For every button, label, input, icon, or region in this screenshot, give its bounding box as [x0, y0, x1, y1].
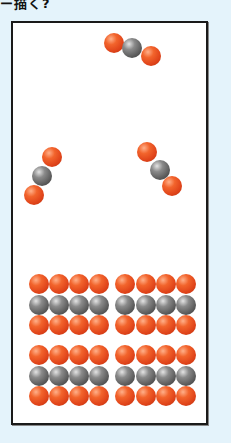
- oxygen-atom-icon: [42, 147, 62, 167]
- oxygen-lattice-atom-icon: [29, 274, 49, 294]
- carbon-lattice-atom-icon: [115, 366, 135, 386]
- oxygen-lattice-atom-icon: [49, 386, 69, 406]
- oxygen-lattice-atom-icon: [156, 386, 176, 406]
- oxygen-lattice-atom-icon: [156, 274, 176, 294]
- oxygen-atom-icon: [24, 185, 44, 205]
- oxygen-lattice-atom-icon: [29, 315, 49, 335]
- oxygen-lattice-atom-icon: [29, 386, 49, 406]
- carbon-lattice-atom-icon: [156, 366, 176, 386]
- carbon-lattice-atom-icon: [156, 295, 176, 315]
- oxygen-lattice-atom-icon: [49, 345, 69, 365]
- oxygen-lattice-atom-icon: [136, 345, 156, 365]
- oxygen-lattice-atom-icon: [115, 274, 135, 294]
- oxygen-lattice-atom-icon: [89, 315, 109, 335]
- oxygen-lattice-atom-icon: [136, 274, 156, 294]
- oxygen-lattice-atom-icon: [176, 386, 196, 406]
- carbon-atom-icon: [32, 166, 52, 186]
- carbon-lattice-atom-icon: [69, 366, 89, 386]
- carbon-lattice-atom-icon: [176, 366, 196, 386]
- oxygen-lattice-atom-icon: [156, 315, 176, 335]
- carbon-lattice-atom-icon: [49, 295, 69, 315]
- carbon-lattice-atom-icon: [29, 366, 49, 386]
- carbon-lattice-atom-icon: [176, 295, 196, 315]
- oxygen-atom-icon: [141, 46, 161, 66]
- oxygen-lattice-atom-icon: [69, 315, 89, 335]
- oxygen-lattice-atom-icon: [176, 345, 196, 365]
- oxygen-lattice-atom-icon: [49, 315, 69, 335]
- oxygen-lattice-atom-icon: [69, 386, 89, 406]
- oxygen-lattice-atom-icon: [89, 345, 109, 365]
- oxygen-lattice-atom-icon: [69, 345, 89, 365]
- carbon-lattice-atom-icon: [89, 295, 109, 315]
- caption-text: ー描く?: [0, 0, 51, 12]
- oxygen-lattice-atom-icon: [176, 315, 196, 335]
- oxygen-lattice-atom-icon: [69, 274, 89, 294]
- carbon-lattice-atom-icon: [115, 295, 135, 315]
- carbon-atom-icon: [122, 38, 142, 58]
- oxygen-lattice-atom-icon: [89, 274, 109, 294]
- oxygen-atom-icon: [104, 33, 124, 53]
- carbon-lattice-atom-icon: [29, 295, 49, 315]
- oxygen-lattice-atom-icon: [115, 315, 135, 335]
- carbon-lattice-atom-icon: [136, 366, 156, 386]
- oxygen-lattice-atom-icon: [136, 315, 156, 335]
- carbon-lattice-atom-icon: [49, 366, 69, 386]
- oxygen-lattice-atom-icon: [115, 345, 135, 365]
- oxygen-lattice-atom-icon: [49, 274, 69, 294]
- carbon-lattice-atom-icon: [136, 295, 156, 315]
- oxygen-lattice-atom-icon: [176, 274, 196, 294]
- oxygen-lattice-atom-icon: [115, 386, 135, 406]
- oxygen-lattice-atom-icon: [136, 386, 156, 406]
- oxygen-lattice-atom-icon: [89, 386, 109, 406]
- oxygen-lattice-atom-icon: [156, 345, 176, 365]
- oxygen-lattice-atom-icon: [29, 345, 49, 365]
- oxygen-atom-icon: [137, 142, 157, 162]
- carbon-lattice-atom-icon: [89, 366, 109, 386]
- oxygen-atom-icon: [162, 176, 182, 196]
- carbon-lattice-atom-icon: [69, 295, 89, 315]
